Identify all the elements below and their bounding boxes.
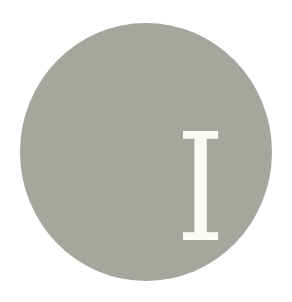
badge-letter: I: [176, 118, 214, 258]
gray-circle-badge: [20, 23, 272, 281]
